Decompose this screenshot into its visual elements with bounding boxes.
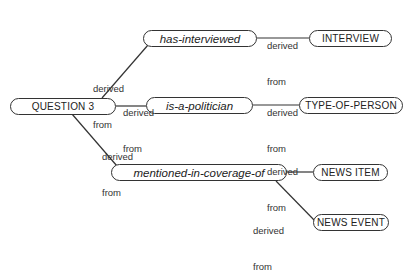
edge-label-line: derived: [267, 40, 298, 52]
node-news-event: NEWS EVENT: [313, 214, 389, 231]
node-type-of-person: TYPE-OF-PERSON: [299, 97, 403, 114]
edge-label-question3-mentioned: derived from: [102, 127, 133, 211]
edge-label-mentioned-news-event: derived from: [253, 201, 284, 274]
edge-label-line: derived: [93, 83, 124, 95]
edge-label-line: derived: [267, 166, 298, 178]
edge-label-line: derived: [267, 107, 298, 119]
edge-label-line: derived: [123, 107, 154, 119]
node-has-interviewed: has-interviewed: [143, 30, 257, 47]
edge-label-line: from: [102, 187, 133, 199]
edge-label-line: derived: [253, 225, 284, 237]
node-is-a-politician: is-a-politician: [146, 97, 253, 114]
node-news-item: NEWS ITEM: [313, 164, 388, 181]
node-interview: INTERVIEW: [309, 30, 392, 47]
edge-label-line: derived: [102, 151, 133, 163]
edge-label-line: from: [253, 261, 284, 273]
